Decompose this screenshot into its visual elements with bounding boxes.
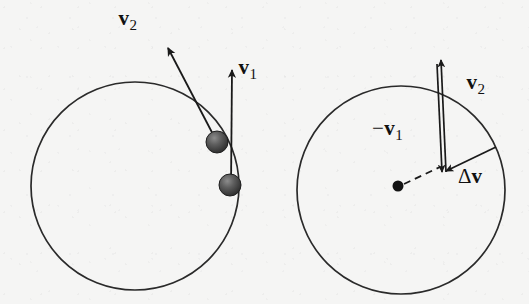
label-v2-right: v2 <box>466 72 485 97</box>
label-v1-left-subscript: 1 <box>250 66 258 82</box>
vector-arrow-v1-left <box>231 70 232 187</box>
label-minus-v1-subscript: 1 <box>395 127 403 143</box>
label-delta-v-sign: Δ <box>458 164 472 188</box>
label-delta-v: Δv <box>458 166 483 191</box>
label-minus-v1-sign: − <box>372 116 384 140</box>
label-v2-left-symbol: v <box>119 6 130 30</box>
vector-arrow-v2-left <box>168 48 217 142</box>
physics-figure: v2 v1 −v1 v2 Δv <box>0 0 529 304</box>
label-v1-left: v1 <box>238 57 257 82</box>
particle-upper <box>206 131 228 153</box>
label-v2-left: v2 <box>118 8 137 33</box>
circle-center-dot <box>393 181 404 192</box>
vector-diagram-canvas <box>0 0 529 304</box>
left-panel-group <box>31 48 241 290</box>
dashed-radius-line <box>404 167 440 184</box>
label-v1-left-symbol: v <box>239 55 250 79</box>
label-v2-left-subscript: 2 <box>130 17 138 33</box>
label-minus-v1-symbol: v <box>384 116 395 140</box>
label-v2-right-symbol: v <box>467 70 478 94</box>
particle-lower <box>219 174 241 196</box>
label-minus-v1: −v1 <box>372 118 403 143</box>
label-delta-v-symbol: v <box>472 164 483 188</box>
label-v2-right-subscript: 2 <box>478 81 486 97</box>
orbit-circle-left <box>31 82 239 290</box>
